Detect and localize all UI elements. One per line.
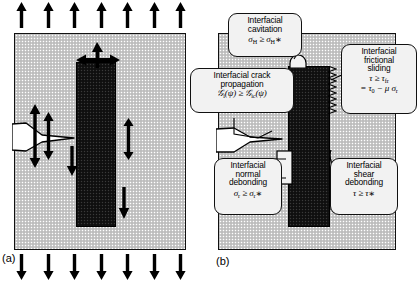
callout-interfacial-crack-propagation[interactable]: Interfacial crack propagation 𝒢i(ψ) ≥ 𝒢i… bbox=[190, 68, 294, 113]
callout-equation: σH ≥ σH∗ bbox=[232, 34, 298, 44]
panel-a: (a) bbox=[0, 0, 206, 282]
fiber-block-a bbox=[76, 62, 116, 227]
callout-interfacial-shear-debonding[interactable]: Interfacial shear debonding τ ≥ τ∗ bbox=[330, 158, 398, 215]
arrow-down bbox=[96, 254, 107, 280]
callout-line: cavitation bbox=[232, 25, 298, 34]
interface-normal-arrows bbox=[122, 118, 135, 160]
callout-line: debonding bbox=[334, 178, 394, 187]
arrow-down bbox=[175, 254, 186, 280]
callout-equation-2: = τ0 − μ σr bbox=[345, 84, 413, 93]
callout-equation: τ ≥ τ∗ bbox=[334, 188, 394, 198]
callout-equation: σr ≥ σr∗ bbox=[218, 188, 278, 198]
arrow-down bbox=[69, 254, 80, 280]
remote-tension-arrows-top bbox=[16, 2, 186, 28]
panel-b: Interfacial cavitation σH ≥ σH∗ Interfac… bbox=[206, 0, 412, 282]
panel-b-caption: (b) bbox=[216, 255, 229, 267]
leader-crack-propagation bbox=[232, 118, 290, 144]
callout-interfacial-frictional-sliding[interactable]: Interfacial frictional sliding τ ≥ τfr =… bbox=[341, 44, 417, 114]
arrow-up bbox=[43, 2, 54, 28]
fiber-block-b bbox=[288, 66, 330, 227]
arrow-down bbox=[149, 254, 160, 280]
callout-equation: τ ≥ τfr bbox=[345, 74, 413, 83]
arrow-down bbox=[16, 254, 27, 280]
interface-shear-arrow-left bbox=[66, 146, 78, 176]
arrow-up bbox=[149, 2, 160, 28]
interface-shear-arrow-right bbox=[118, 187, 130, 219]
arrow-up bbox=[122, 2, 133, 28]
callout-interfacial-normal-debonding[interactable]: Interfacial normal debonding σr ≥ σr∗ bbox=[214, 158, 282, 215]
crack-tip-opening-arrows bbox=[28, 104, 42, 168]
callout-equation: 𝒢i(ψ) ≥ 𝒢ic(ψ) bbox=[194, 89, 290, 98]
remote-tension-arrows-bottom bbox=[16, 254, 186, 280]
panel-a-caption: (a) bbox=[2, 252, 15, 264]
callout-line: sliding bbox=[345, 64, 413, 73]
callout-line: debonding bbox=[218, 178, 278, 187]
fiber-tip-opening-arrows bbox=[72, 42, 124, 78]
arrow-up bbox=[175, 2, 186, 28]
arrow-up bbox=[16, 2, 27, 28]
callout-interfacial-cavitation[interactable]: Interfacial cavitation σH ≥ σH∗ bbox=[228, 13, 302, 57]
arrow-up bbox=[96, 2, 107, 28]
arrow-down bbox=[122, 254, 133, 280]
arrow-up bbox=[69, 2, 80, 28]
arrow-down bbox=[43, 254, 54, 280]
crack-tip-opening-arrows-2 bbox=[42, 112, 55, 160]
